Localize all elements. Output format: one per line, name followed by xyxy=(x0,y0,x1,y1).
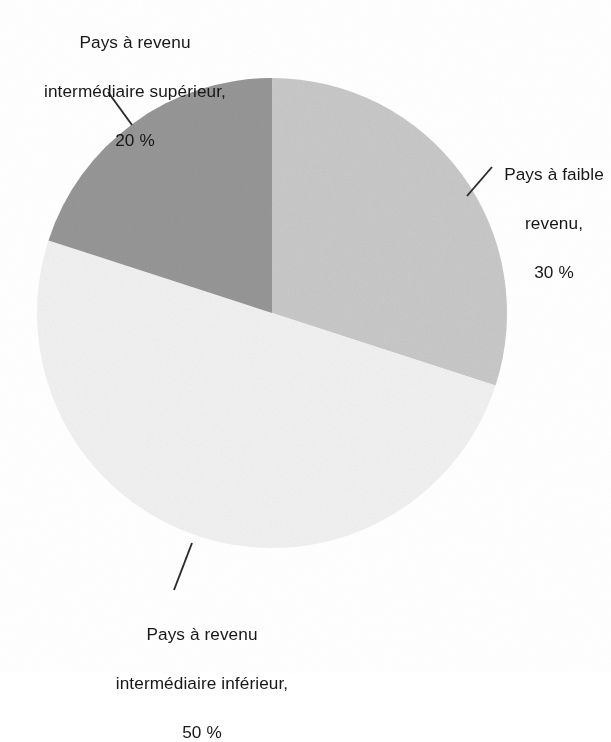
leader-line-lower-middle-income xyxy=(174,543,192,590)
slice-label-lower-middle-income-line1: Pays à revenu xyxy=(48,622,356,646)
slice-label-lower-middle-income: Pays à revenu intermédiaire inférieur, 5… xyxy=(48,598,356,742)
slice-label-upper-middle-income: Pays à revenu intermédiaire supérieur, 2… xyxy=(6,6,264,177)
slice-label-low-income-line1: Pays à faible xyxy=(497,162,611,186)
leader-line-low-income xyxy=(467,167,492,196)
slice-label-upper-middle-income-line1: Pays à revenu xyxy=(6,30,264,54)
slice-label-lower-middle-income-line2: intermédiaire inférieur, xyxy=(48,671,356,695)
slice-label-upper-middle-income-line2: intermédiaire supérieur, xyxy=(6,79,264,103)
slice-label-low-income-line2: revenu, xyxy=(497,211,611,235)
slice-label-low-income-value: 30 % xyxy=(497,260,611,284)
slice-label-lower-middle-income-value: 50 % xyxy=(48,720,356,742)
slice-label-upper-middle-income-value: 20 % xyxy=(6,128,264,152)
slice-label-low-income: Pays à faible revenu, 30 % xyxy=(497,138,611,309)
